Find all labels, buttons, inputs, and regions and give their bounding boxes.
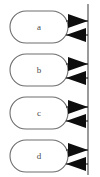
node-a-label: a (37, 22, 41, 32)
node-group-c[interactable]: c (10, 97, 68, 129)
edge-c-in[interactable] (66, 114, 88, 128)
arrowhead-right-icon (68, 57, 88, 71)
node-group-d[interactable]: d (10, 140, 68, 172)
node-c-label: c (37, 108, 41, 118)
arrowhead-right-icon (68, 14, 88, 28)
arrowhead-right-icon (68, 100, 88, 114)
diagram-canvas: a b c (0, 0, 100, 177)
arrowhead-left-icon (66, 114, 86, 128)
node-b-label: b (37, 65, 42, 75)
edge-d-out[interactable] (66, 143, 88, 157)
edge-a-out[interactable] (66, 14, 88, 28)
arrowhead-left-icon (66, 71, 86, 85)
edge-d-in[interactable] (66, 157, 88, 171)
arrowhead-right-icon (68, 143, 88, 157)
node-group-a[interactable]: a (10, 11, 68, 43)
arrowhead-left-icon (66, 157, 86, 171)
edge-b-out[interactable] (66, 57, 88, 71)
edge-c-out[interactable] (66, 100, 88, 114)
node-group-b[interactable]: b (10, 54, 68, 86)
edge-a-in[interactable] (66, 28, 88, 42)
diagram-svg: a b c (0, 0, 100, 177)
edge-b-in[interactable] (66, 71, 88, 85)
node-d-label: d (37, 151, 42, 161)
arrowhead-left-icon (66, 28, 86, 42)
